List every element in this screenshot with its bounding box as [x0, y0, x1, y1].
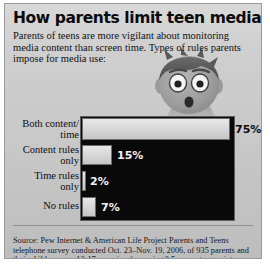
bar-value-label: 2%	[90, 175, 109, 188]
bar-track: 7%	[82, 197, 261, 217]
table-row: Time rules only 2%	[5, 168, 261, 194]
footer-divider	[13, 225, 253, 226]
bar-category-line2: only	[60, 181, 79, 192]
bar-category-label: Time rules only	[4, 170, 79, 193]
bar-category-line2: time	[60, 129, 79, 140]
table-row: Content rules only 15%	[5, 142, 261, 168]
bar-value-label: 15%	[117, 149, 143, 162]
bar-track: 75%	[82, 118, 261, 140]
bar-rows: Both content/ time 75% Content rules onl…	[5, 116, 261, 220]
bar-category-line1: No rules	[43, 200, 79, 211]
bar-category-label: Both content/ time	[4, 118, 79, 141]
bar-category-line1: Content rules	[23, 144, 79, 155]
infographic-card: How parents limit teen media use Parents…	[4, 3, 262, 259]
bar-category-line1: Time rules	[34, 170, 79, 181]
table-row: No rules 7%	[5, 194, 261, 220]
bar-category-line1: Both content/	[22, 118, 79, 129]
bar-value-label: 7%	[101, 201, 120, 214]
source-note: Source: Pew Internet & American Life Pro…	[13, 236, 253, 259]
bar-chart: Both content/ time 75% Content rules onl…	[5, 116, 261, 224]
bar-category-label: Content rules only	[4, 144, 79, 167]
bar-fill	[82, 118, 230, 140]
bar-fill	[82, 197, 96, 217]
bar-track: 2%	[82, 171, 261, 191]
page-title: How parents limit teen media use	[5, 4, 261, 27]
subtitle-text: Parents of teens are more vigilant about…	[5, 27, 261, 65]
bar-fill	[82, 145, 112, 165]
bar-value-label: 75%	[235, 123, 261, 136]
bar-category-label: No rules	[4, 200, 79, 211]
bar-category-line2: only	[60, 155, 79, 166]
table-row: Both content/ time 75%	[5, 116, 261, 142]
bar-fill	[82, 171, 86, 191]
bar-track: 15%	[82, 145, 261, 165]
